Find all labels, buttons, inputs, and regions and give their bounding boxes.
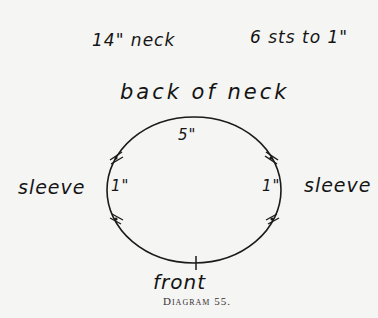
left-measure-label: 1" (111, 177, 129, 195)
front-label: front (153, 270, 206, 294)
right-measure-label: 1" (262, 177, 280, 195)
left-sleeve-label: sleeve (18, 176, 86, 198)
marker-upper-right (265, 152, 278, 164)
back-measure-label: 5" (178, 126, 196, 144)
marker-upper-left (110, 152, 123, 164)
right-sleeve-label: sleeve (304, 174, 372, 196)
diagram-caption: Diagram 55. (163, 295, 231, 307)
diagram-canvas: 14" neck 6 sts to 1" back of neck (0, 0, 378, 318)
